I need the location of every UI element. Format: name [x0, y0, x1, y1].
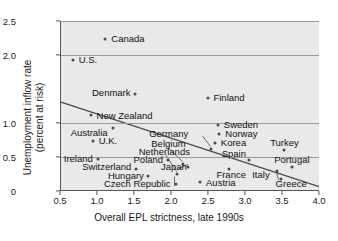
data-point-label: U.K.: [99, 136, 117, 146]
x-axis-tick-label: 1.5: [127, 195, 140, 206]
data-point: [213, 142, 216, 145]
y-axis-title-line-2: (percent at risk): [33, 33, 45, 203]
data-point-label: Austria: [206, 178, 236, 188]
data-point: [97, 158, 100, 161]
data-point-label: U.S.: [79, 55, 97, 65]
data-point: [199, 181, 202, 184]
y-axis-tick-label: 2.0: [3, 50, 16, 61]
data-point: [104, 38, 107, 41]
data-point: [91, 139, 94, 142]
x-axis-tick-mark: [170, 191, 171, 195]
y-axis-tick-mark: [56, 122, 60, 123]
data-point-label: Czech Republic: [104, 179, 171, 189]
x-axis-tick-mark: [96, 191, 97, 195]
x-axis-tick-label: 1.0: [90, 195, 103, 206]
x-axis-tick-mark: [281, 191, 282, 195]
data-point-label: Portugal: [274, 155, 309, 165]
y-axis-title-line-1: Unemployment inflow rate: [22, 33, 34, 203]
data-point-label: Turkey: [270, 138, 299, 148]
data-point: [283, 149, 286, 152]
x-axis-tick-label: 3.0: [238, 195, 251, 206]
leader-line: [203, 136, 211, 147]
y-axis-tick-label: 1.0: [3, 118, 16, 129]
x-axis-tick-mark: [244, 191, 245, 195]
y-axis-tick-label: 0.5: [3, 152, 16, 163]
data-point: [147, 175, 150, 178]
data-point-label: Spain: [222, 149, 246, 159]
data-point: [247, 159, 250, 162]
scatter-chart: CanadaU.S.DenmarkFinlandNew ZealandSwede…: [0, 0, 338, 241]
data-point: [206, 96, 209, 99]
data-point-label: Japan: [161, 162, 187, 172]
x-axis-tick-mark: [133, 191, 134, 195]
data-point: [187, 165, 190, 168]
y-axis-tick-label: 2.5: [3, 16, 16, 27]
data-point-label: New Zealand: [97, 111, 153, 121]
y-axis-tick-mark: [56, 156, 60, 157]
x-axis-tick-label: 2.5: [201, 195, 214, 206]
data-point: [218, 132, 221, 135]
gridline: [61, 123, 319, 124]
gridline: [61, 21, 319, 22]
data-point-label: Poland: [134, 155, 164, 165]
data-point-label: Greece: [276, 179, 307, 189]
x-axis-tick-label: 0.5: [53, 195, 66, 206]
data-point: [111, 126, 114, 129]
data-point: [276, 169, 279, 172]
data-point: [134, 93, 137, 96]
x-axis-tick-label: 2.0: [164, 195, 177, 206]
data-point-label: Finland: [213, 93, 244, 103]
x-axis-tick-mark: [318, 191, 319, 195]
data-point: [174, 182, 177, 185]
data-point-label: Italy: [252, 170, 269, 180]
data-point: [176, 173, 179, 176]
plot-area: CanadaU.S.DenmarkFinlandNew ZealandSwede…: [60, 21, 319, 191]
data-point-label: Denmark: [92, 88, 131, 98]
y-axis-title: Unemployment inflow rate (percent at ris…: [22, 33, 45, 203]
data-point: [71, 58, 74, 61]
data-point: [210, 147, 213, 150]
data-point: [290, 165, 293, 168]
y-axis-tick-mark: [56, 54, 60, 55]
x-axis-tick-mark: [207, 191, 208, 195]
data-point: [216, 124, 219, 127]
data-point-label: Canada: [111, 34, 144, 44]
data-point: [89, 113, 92, 116]
x-axis-tick-label: 4.0: [312, 195, 325, 206]
y-axis-tick-mark: [56, 20, 60, 21]
x-axis-tick-label: 3.5: [275, 195, 288, 206]
x-axis-title: Overall EPL strictness, late 1990s: [0, 212, 338, 223]
y-axis-tick-label: 0: [11, 186, 16, 197]
x-axis-tick-mark: [59, 191, 60, 195]
gridline: [61, 55, 319, 56]
